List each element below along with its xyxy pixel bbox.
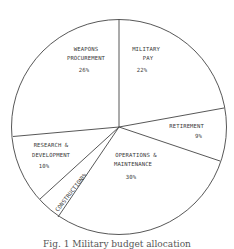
boundary-operations-construction — [58, 127, 119, 217]
construction-pct: 3% — [79, 172, 88, 182]
slice-label-research: RESEARCH & DEVELOPMENT 10% — [32, 142, 71, 169]
retirement-pct: 9% — [195, 133, 202, 139]
research-line2: DEVELOPMENT — [32, 152, 71, 158]
weapons-pct: 26% — [79, 67, 90, 73]
weapons-line2: PROCUREMENT — [67, 55, 106, 61]
boundary-research-weapons — [13, 127, 119, 137]
research-line1: RESEARCH & — [34, 142, 69, 148]
boundary-construction-research — [40, 127, 119, 199]
operations-line1: OPERATIONS & — [115, 152, 157, 158]
military-pay-line2: PAY — [143, 55, 154, 61]
slice-label-weapons: WEAPONS PROCUREMENT 26% — [67, 46, 106, 73]
military-pay-line1: MILITARY — [132, 46, 160, 52]
operations-pct: 30% — [126, 174, 137, 180]
slice-label-construction: CONSTRUCTION 3% — [54, 172, 88, 213]
slice-label-military-pay: MILITARY PAY 22% — [132, 46, 160, 73]
figure-caption: Fig. 1 Military budget allocation — [0, 239, 234, 249]
slice-label-retirement: RETIREMENT 9% — [169, 123, 204, 139]
weapons-line1: WEAPONS — [74, 46, 98, 52]
retirement-line1: RETIREMENT — [169, 123, 204, 129]
military-pay-pct: 22% — [137, 67, 148, 73]
operations-line2: MAINTENANCE — [114, 161, 153, 167]
research-pct: 10% — [39, 163, 50, 169]
slice-label-operations: OPERATIONS & MAINTENANCE 30% — [114, 152, 157, 180]
